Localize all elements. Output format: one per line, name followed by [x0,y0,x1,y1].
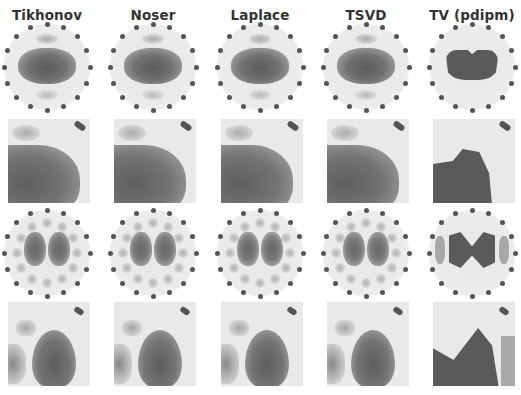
inclusion-blob [32,330,76,386]
electrode-marker [470,22,475,27]
electrode-marker [430,267,435,272]
electrode-marker [347,290,352,295]
electrode-marker [403,81,408,86]
electrode-marker [215,65,220,70]
electrode-marker [190,234,195,239]
electrode-marker [181,34,186,39]
inclusion-pair [449,232,495,268]
inclusion-blob [138,330,182,386]
electrode-marker [380,290,385,295]
electrode-marker [194,65,199,70]
electrode-marker [120,281,125,286]
artifact-blob [142,90,164,100]
inclusion-blob [48,232,70,266]
inclusion-blob [327,344,345,384]
electrode-marker [5,267,10,272]
electrode-marker [73,306,85,317]
electrode-marker [403,234,408,239]
electrode-marker [486,290,491,295]
electrode-marker [513,251,518,256]
electrode-marker [2,65,7,70]
electrode-marker [84,234,89,239]
inclusion-blob [130,232,152,266]
electrode-marker [167,290,172,295]
electrode-marker [274,211,279,216]
electrode-marker [258,22,263,27]
artifact-blob [387,233,397,243]
inclusion-blob [154,232,176,266]
electrode-marker [403,48,408,53]
electrode-marker [111,81,116,86]
artifact-blob [12,125,40,141]
electrode-marker [241,211,246,216]
zoomed-region [221,302,303,386]
figure: TikhonovNoserLaplaceTSVDTV (pdipm) [0,0,521,395]
artifact-blob [72,248,82,258]
artifact-blob [331,248,341,258]
artifact-blob [16,320,36,336]
electrode-marker [427,251,432,256]
artifact-blob [361,278,371,288]
zoomed-region [8,302,90,386]
artifact-blob [36,34,58,44]
electrode-marker [347,104,352,109]
electrode-marker [134,104,139,109]
electrode-marker [288,281,293,286]
artifact-blob [249,34,271,44]
zoomed-region [433,119,515,203]
artifact-blob [255,278,265,288]
electrode-marker [364,22,369,27]
zoomed-region [114,119,196,203]
reconstruction-disk [429,210,515,296]
electrode-marker [88,65,93,70]
inclusion-blob [245,330,289,386]
column-title: Laplace [207,7,313,23]
electrode-marker [274,290,279,295]
electrode-marker [190,48,195,53]
electrode-marker [439,95,444,100]
column-title: Tikhonov [0,7,100,23]
artifact-blob [361,218,371,228]
electrode-marker [347,211,352,216]
electrode-marker [297,234,302,239]
electrode-marker [500,34,505,39]
artifact-blob [255,218,265,228]
electrode-marker [286,306,298,317]
artifact-blob [229,233,239,243]
artifact-blob [16,233,26,243]
reconstruction-disk [217,24,303,110]
artifact-blob [331,125,359,141]
inclusion-blob [343,232,365,266]
reconstruction-disk [4,24,90,110]
artifact-blob [355,90,377,100]
artifact-blob [240,222,250,232]
electrode-marker [430,234,435,239]
artifact-blob [27,274,37,284]
electrode-marker [500,220,505,225]
inclusion-blob [24,232,46,266]
electrode-marker [486,211,491,216]
electrode-marker [439,281,444,286]
electrode-marker [5,234,10,239]
electrode-marker [258,108,263,113]
electrode-marker [498,306,510,317]
inclusion-blob [114,344,132,384]
electrode-marker [2,251,7,256]
electrode-marker [108,65,113,70]
electrode-marker [347,25,352,30]
electrode-marker [498,120,511,132]
inclusion-blob [433,149,499,203]
artifact-blob [281,233,291,243]
electrode-marker [364,108,369,113]
electrode-marker [241,104,246,109]
electrode-marker [181,281,186,286]
reconstruction-disk [110,210,196,296]
electrode-marker [179,120,192,132]
artifact-blob [57,222,67,232]
zoomed-region [327,119,409,203]
electrode-marker [218,48,223,53]
artifact-blob [42,218,52,228]
inclusion-blob [351,330,395,386]
electrode-marker [14,281,19,286]
electrode-marker [286,120,299,132]
